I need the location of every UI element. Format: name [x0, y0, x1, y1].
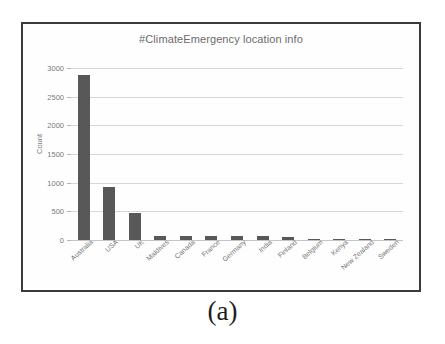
bar-group: UK [122, 68, 148, 240]
bar-group: USA [97, 68, 123, 240]
x-axis-tick-label-text: Australia [69, 238, 94, 261]
bar-group: France [199, 68, 225, 240]
bar [103, 187, 115, 240]
x-axis-tick-label-text: Sweden [377, 238, 400, 260]
y-axis-tick-label: 1000 [47, 178, 64, 187]
y-axis-title: Count [35, 134, 44, 154]
y-axis-tick-label: 0 [60, 236, 64, 245]
y-axis-tick-label: 2500 [47, 92, 64, 101]
y-axis-tick-label: 2000 [47, 121, 64, 130]
bar-group: New Zealand [352, 68, 378, 240]
figure-container: #ClimateEmergency location info Count 05… [0, 0, 445, 344]
x-axis-tick-label-text: Belgium [300, 238, 323, 260]
x-axis-tick-label-text: France [201, 238, 222, 258]
bar-group: Kenya [326, 68, 352, 240]
bar-group: Australia [71, 68, 97, 240]
chart-title: #ClimateEmergency location info [23, 33, 419, 45]
x-axis-tick-label-text: Finland [276, 238, 298, 259]
y-axis-tick-label: 1500 [47, 150, 64, 159]
chart-image-frame: #ClimateEmergency location info Count 05… [21, 22, 421, 292]
y-axis-tick [67, 240, 71, 241]
plot-area: 050010001500200025003000 AustraliaUSAUKM… [71, 68, 403, 240]
bar-group: Germany [224, 68, 250, 240]
bar-group: Canada [173, 68, 199, 240]
bar-group: Sweden [377, 68, 403, 240]
bar-group: Maldives [148, 68, 174, 240]
bar [129, 213, 141, 240]
x-axis-tick-label-text: Canada [173, 238, 196, 260]
bar [78, 75, 90, 240]
x-axis-tick-label-text: Germany [221, 238, 247, 262]
figure-caption: (a) [0, 296, 445, 327]
x-axis-tick-label-text: Maldives [145, 238, 170, 262]
bar-group: India [250, 68, 276, 240]
bar-group: Belgium [301, 68, 327, 240]
y-axis-tick-label: 500 [51, 207, 64, 216]
y-axis-tick-label: 3000 [47, 64, 64, 73]
bar-group: Finland [275, 68, 301, 240]
chart-canvas: #ClimateEmergency location info Count 05… [23, 24, 419, 290]
x-axis-tick-label-text: Kenya [330, 238, 349, 256]
